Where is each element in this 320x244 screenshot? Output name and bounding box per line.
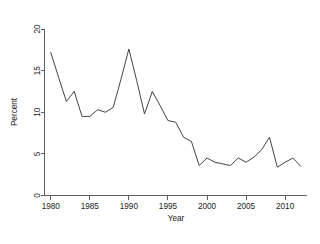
y-tick-label: 15 xyxy=(33,66,42,76)
x-tick-label: 1985 xyxy=(81,202,100,211)
y-tick-label: 0 xyxy=(33,193,42,198)
x-tick-label: 1995 xyxy=(159,202,178,211)
y-axis-title: Percent xyxy=(10,97,19,126)
x-tick-label: 1990 xyxy=(120,202,139,211)
y-tick-label: 5 xyxy=(33,151,42,156)
x-tick-label: 2005 xyxy=(237,202,256,211)
chart-figure: 05101520 1980198519901995200020052010 Pe… xyxy=(0,0,320,244)
x-tick-label: 2000 xyxy=(198,202,217,211)
y-tick-label: 20 xyxy=(33,24,42,34)
x-tick-label: 1980 xyxy=(42,202,61,211)
y-tick-label: 10 xyxy=(33,107,42,117)
line-chart-plot: 05101520 1980198519901995200020052010 Pe… xyxy=(0,0,320,244)
x-axis-title: Year xyxy=(168,214,185,223)
x-tick-label: 2010 xyxy=(276,202,295,211)
